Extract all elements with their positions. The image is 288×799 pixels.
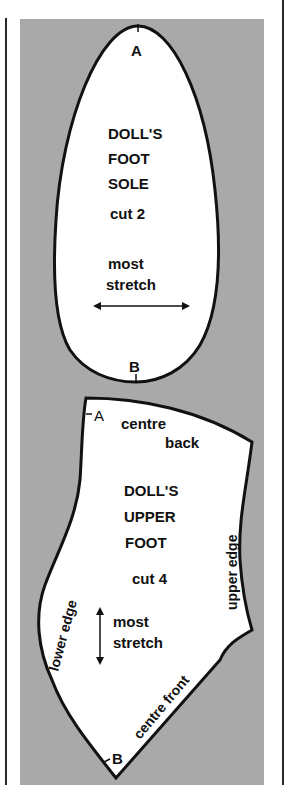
sole-cut-count: cut 2 xyxy=(110,205,145,222)
sole-title-line1: DOLL'S xyxy=(108,125,162,142)
upper-title-line2: UPPER xyxy=(124,508,176,525)
sole-pattern-piece: A B DOLL'S FOOT SOLE cut 2 most stretch xyxy=(54,24,218,382)
upper-point-b: B xyxy=(112,750,123,767)
upper-title-line1: DOLL'S xyxy=(124,482,178,499)
pattern-diagram: A B DOLL'S FOOT SOLE cut 2 most stretch … xyxy=(0,0,288,799)
centre-back-line2: back xyxy=(165,434,200,451)
upper-point-a: A xyxy=(94,407,104,424)
sole-outline xyxy=(54,26,218,382)
upper-foot-pattern-piece: A B centre back DOLL'S UPPER FOOT cut 4 … xyxy=(39,398,252,778)
upper-title-line3: FOOT xyxy=(125,534,167,551)
sole-title-line2: FOOT xyxy=(108,150,150,167)
sole-point-b: B xyxy=(129,358,140,375)
upper-cut-count: cut 4 xyxy=(132,570,168,587)
sole-stretch-line1: most xyxy=(108,255,144,272)
centre-back-line1: centre xyxy=(121,415,166,432)
sole-point-a: A xyxy=(131,42,142,59)
upper-stretch-line1: most xyxy=(113,613,149,630)
sole-title-line3: SOLE xyxy=(108,175,149,192)
upper-edge-label: upper edge xyxy=(224,534,240,610)
sole-stretch-line2: stretch xyxy=(106,276,156,293)
upper-stretch-line2: stretch xyxy=(113,634,163,651)
